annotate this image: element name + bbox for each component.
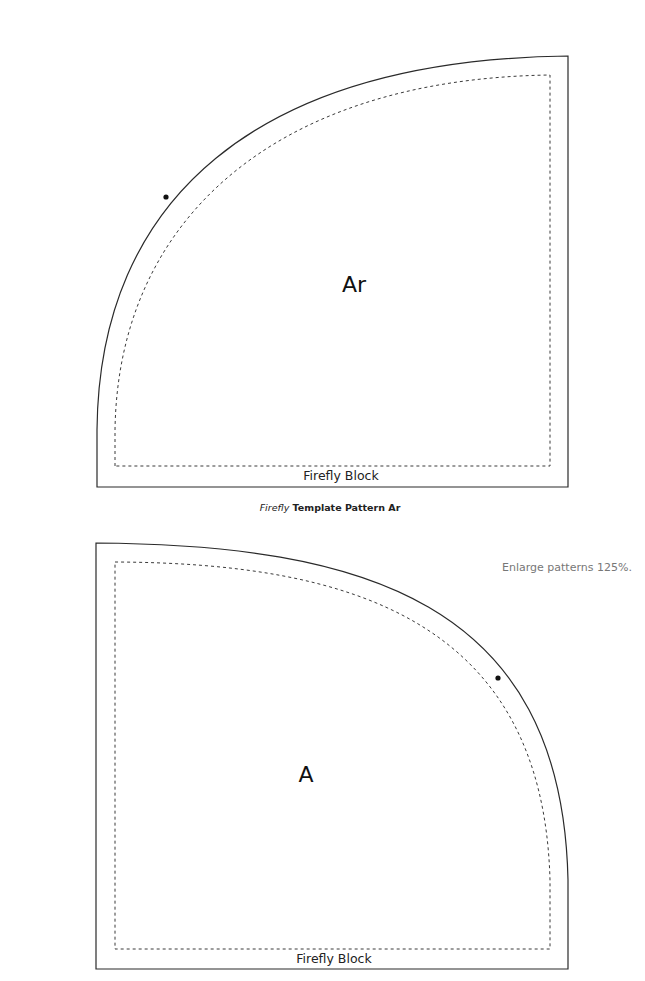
pattern-a-cut-line [96, 543, 568, 969]
pattern-canvas [0, 0, 645, 981]
caption-ar-italic: Firefly [260, 502, 290, 513]
pattern-a-seam-line [115, 562, 550, 949]
pattern-ar [97, 56, 568, 487]
block-label-ar: Firefly Block [303, 468, 378, 483]
block-label-a: Firefly Block [296, 951, 371, 966]
pattern-ar-match-dot [163, 194, 168, 199]
piece-label-ar: Ar [342, 272, 366, 297]
pattern-a [96, 543, 568, 969]
caption-ar: Firefly Template Pattern Ar [260, 502, 401, 513]
caption-ar-text: Template Pattern Ar [289, 502, 400, 513]
pattern-ar-seam-line [115, 75, 550, 466]
enlarge-note: Enlarge patterns 125%. [502, 561, 632, 574]
piece-label-a: A [298, 762, 313, 787]
pattern-ar-cut-line [97, 56, 568, 487]
pattern-a-match-dot [495, 675, 500, 680]
